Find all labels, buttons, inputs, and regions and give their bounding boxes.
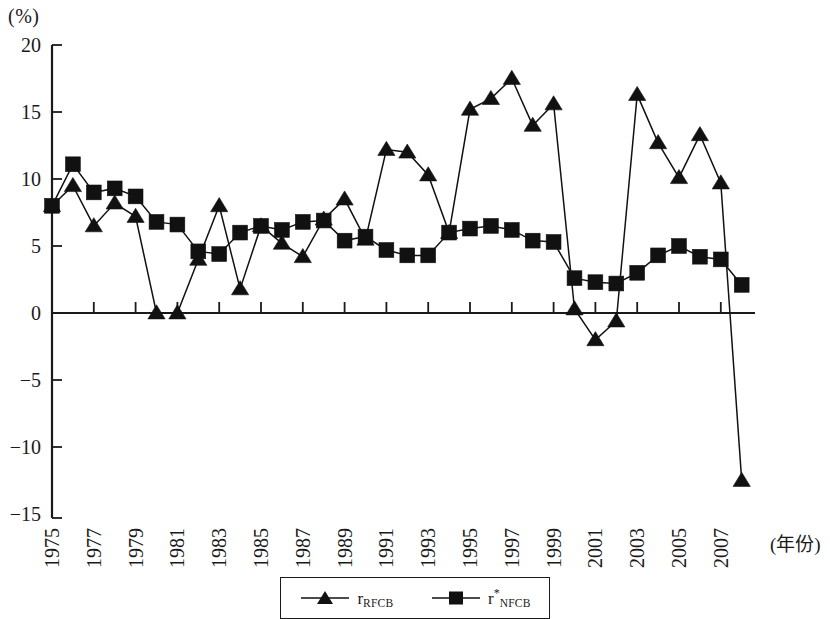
data-point-marker — [442, 225, 457, 240]
data-point-marker — [713, 252, 728, 267]
x-tick-label: 1995 — [459, 528, 481, 568]
x-tick-label: 2007 — [710, 528, 732, 568]
x-tick-label: 1987 — [292, 528, 314, 568]
legend-label-rfcb: rRFCB — [357, 590, 393, 607]
data-point-marker — [128, 189, 143, 204]
data-point-marker — [211, 198, 228, 212]
data-point-marker — [672, 239, 687, 254]
data-point-marker — [546, 235, 561, 250]
x-tick-label: 1979 — [125, 528, 147, 568]
data-point-marker — [86, 185, 101, 200]
data-point-marker — [525, 233, 540, 248]
data-point-marker — [484, 219, 499, 234]
data-point-marker — [45, 198, 60, 213]
data-point-marker — [567, 271, 582, 286]
x-tick-label: 1981 — [166, 528, 188, 568]
x-tick-label: 1993 — [417, 528, 439, 568]
plot-area: 20151050−5−10−15 19751977197919811983198… — [0, 0, 830, 619]
data-point-marker — [566, 301, 583, 315]
data-point-marker — [588, 275, 603, 290]
data-series-group — [43, 70, 750, 486]
data-point-marker — [421, 248, 436, 263]
x-tick-labels: 1975197719791981198319851987198919911993… — [41, 528, 732, 568]
data-point-marker — [212, 247, 227, 262]
x-axis-title: (年份) — [770, 534, 821, 556]
data-point-marker — [254, 219, 269, 234]
data-point-marker — [233, 225, 248, 240]
legend-label-nfcb: r*NFCB — [488, 590, 531, 607]
data-point-marker — [608, 313, 625, 327]
data-point-marker — [379, 243, 394, 258]
y-axis — [52, 45, 62, 518]
x-tick-label: 1991 — [375, 528, 397, 568]
data-point-marker — [149, 214, 164, 229]
y-tick-label: 20 — [21, 34, 41, 56]
data-point-marker — [191, 244, 206, 259]
data-point-marker — [461, 101, 478, 115]
data-point-marker — [712, 175, 729, 189]
data-point-marker — [545, 96, 562, 110]
x-tick-label: 1977 — [83, 528, 105, 568]
data-point-marker — [734, 277, 749, 292]
legend-entry-rfcb: rRFCB — [299, 590, 393, 607]
legend-label-nfcb-sup: * — [494, 586, 500, 600]
data-point-marker — [693, 249, 708, 264]
data-point-marker — [275, 223, 290, 238]
data-point-marker — [231, 281, 248, 295]
data-point-marker — [400, 248, 415, 263]
data-point-marker — [609, 276, 624, 291]
x-tick-label: 1989 — [334, 528, 356, 568]
x-tick-label: 1997 — [501, 528, 523, 568]
x-tick-label: 2003 — [626, 528, 648, 568]
chart-page: (%) 20151050−5−10−15 1975197719791981198… — [0, 0, 830, 619]
legend-marker-triangle-icon — [299, 590, 351, 606]
y-tick-label: 10 — [21, 168, 41, 190]
chart-svg: 20151050−5−10−15 19751977197919811983198… — [0, 0, 830, 619]
data-point-marker — [630, 265, 645, 280]
data-point-marker — [64, 178, 81, 192]
data-point-marker — [691, 127, 708, 141]
data-point-marker — [504, 223, 519, 238]
legend-label-nfcb-sub: NFCB — [500, 597, 531, 609]
legend-label-nfcb-base: r — [488, 589, 494, 608]
legend-marker-square-icon — [430, 590, 482, 606]
data-point-marker — [169, 305, 186, 319]
data-point-marker — [148, 305, 165, 319]
data-point-marker — [378, 141, 395, 155]
data-point-marker — [66, 157, 81, 172]
y-tick-labels: 20151050−5−10−15 — [10, 34, 41, 525]
data-point-marker — [629, 86, 646, 100]
data-point-marker — [106, 195, 123, 209]
y-tick-label: 0 — [31, 302, 41, 324]
x-tick-label: 1999 — [543, 528, 565, 568]
series-nfcb — [45, 157, 750, 292]
data-point-marker — [651, 248, 666, 263]
legend-label-rfcb-sub: RFCB — [363, 597, 393, 609]
data-point-marker — [358, 229, 373, 244]
data-point-marker — [337, 233, 352, 248]
x-tick-label: 1975 — [41, 528, 63, 568]
data-point-marker — [295, 214, 310, 229]
x-tick-label: 1985 — [250, 528, 272, 568]
y-tick-label: 15 — [21, 101, 41, 123]
data-point-marker — [336, 191, 353, 205]
data-point-marker — [170, 217, 185, 232]
data-point-marker — [649, 135, 666, 149]
data-point-marker — [733, 472, 750, 486]
x-tick-label: 2005 — [668, 528, 690, 568]
data-point-marker — [316, 213, 331, 228]
data-point-marker — [503, 70, 520, 84]
data-point-marker — [670, 169, 687, 183]
data-point-marker — [294, 249, 311, 263]
x-tick-label: 2001 — [584, 528, 606, 568]
x-tick-label: 1983 — [208, 528, 230, 568]
legend-entry-nfcb: r*NFCB — [430, 590, 531, 607]
data-point-marker — [127, 208, 144, 222]
y-tick-label: −10 — [10, 436, 41, 458]
x-axis-title-text: (年份) — [770, 534, 821, 556]
y-tick-label: −15 — [10, 503, 41, 525]
y-tick-label: −5 — [20, 369, 41, 391]
data-point-marker — [463, 221, 478, 236]
data-point-marker — [107, 181, 122, 196]
chart-legend: rRFCB r*NFCB — [280, 577, 550, 619]
